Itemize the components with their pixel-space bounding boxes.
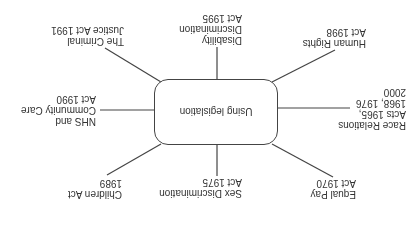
node-criminal-justice: The Criminal Justice Act 1991 xyxy=(51,25,124,47)
node-sex-discrimination: Sex Discrimination Act 1975 xyxy=(159,177,242,199)
connector-equal-pay xyxy=(272,144,333,177)
central-node-label: Using legislation xyxy=(180,107,253,118)
connector-children xyxy=(107,144,161,175)
node-human-rights: Human Rights Act 1998 xyxy=(303,27,366,49)
node-equal-pay: Equal Pay Act 1970 xyxy=(310,178,356,200)
node-nhs-community-care: NHS and Community Care Act 1990 xyxy=(21,94,96,127)
node-children-act: Children Act 1989 xyxy=(68,178,122,200)
node-race-relations: Race Relations Acts 1965, 1968, 1976 200… xyxy=(338,87,406,131)
connector-criminal xyxy=(105,48,161,82)
connector-human-rights xyxy=(272,50,335,82)
node-disability: Disability Discrimination Act 1995 xyxy=(179,13,242,46)
central-node: Using legislation xyxy=(154,79,278,145)
mind-map-diagram: Using legislation Race Relations Acts 19… xyxy=(0,0,410,225)
